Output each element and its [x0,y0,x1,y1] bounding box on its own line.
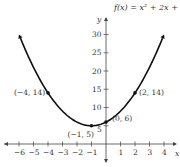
x-axis-left-arrow-icon [4,142,8,146]
x-tick-label: −6 [14,148,25,157]
y-tick-label: 25 [92,48,102,57]
y-tick-label: 30 [92,30,102,39]
point-label: (0, 6) [112,114,132,123]
y-tick-label: 15 [92,85,102,94]
x-tick-label: −2 [72,148,83,157]
y-tick-label: 20 [92,67,102,76]
point-marker-icon [90,124,94,128]
x-tick-label: −4 [43,148,54,157]
y-axis-label: y [96,15,102,24]
x-tick-label: 3 [148,148,153,157]
y-tick-label: 10 [92,103,102,112]
chart-title: f(x) = x² + 2x + 6 [113,3,180,12]
y-axis-up-arrow-icon [104,17,108,21]
x-tick-label: −5 [29,148,40,157]
data-point: (−1, 5) [68,124,95,139]
x-axis-label: x [175,149,180,158]
data-point: (0, 6) [104,114,132,124]
x-tick-label: 4 [162,148,167,157]
point-label: (−1, 5) [68,130,95,139]
point-marker-icon [133,91,137,95]
data-point: (−4, 14) [14,88,50,97]
point-label: (−4, 14) [14,88,45,97]
x-axis-right-arrow-icon [173,142,177,146]
labeled-points: (−4, 14)(−1, 5)(0, 6)(2, 14) [14,88,164,139]
y-tick-label: 5 [97,125,102,134]
x-tick-label: −3 [58,148,69,157]
point-label: (2, 14) [139,88,164,97]
parabola-chart: f(x) = x² + 2x + 6 xy−6−5−4−3−2−11234510… [0,0,180,167]
x-tick-label: 2 [133,148,138,157]
y-axis-down-arrow-icon [104,159,108,163]
point-marker-icon [46,91,50,95]
x-tick-label: −1 [87,148,98,157]
x-tick-label: 1 [119,148,124,157]
point-marker-icon [104,120,108,124]
